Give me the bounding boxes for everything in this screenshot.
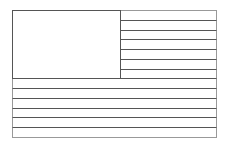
flag-outline — [12, 10, 218, 139]
canton — [13, 11, 121, 79]
